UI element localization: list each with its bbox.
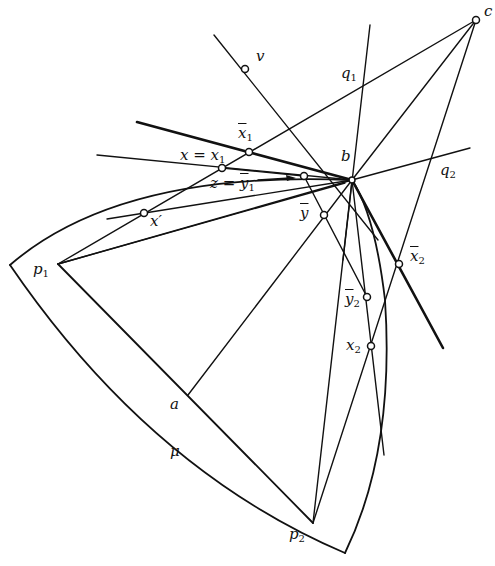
- label-x2-sub: 2: [354, 344, 360, 355]
- line-a-b: [188, 180, 352, 395]
- label-p2-base: p: [289, 525, 299, 543]
- point-x-x1: [219, 165, 226, 172]
- label-x-eq-x1-text: x = x: [180, 146, 219, 164]
- diagram-canvas: c v q1 q2 b x1 x = x1 z = y1 x′ y x2 y2 …: [0, 0, 495, 566]
- point-xbar2: [396, 261, 403, 268]
- label-z-eq-ybar: y: [240, 174, 248, 192]
- label-ybar2-sub: 2: [353, 298, 359, 309]
- line-p1-p2: [58, 264, 313, 523]
- point-x2: [368, 343, 375, 350]
- label-x2: x2: [346, 338, 361, 355]
- label-xbar1-sub: 1: [246, 132, 252, 143]
- label-xbar2: x2: [410, 249, 425, 266]
- label-a: a: [170, 397, 179, 412]
- label-q2: q2: [440, 163, 456, 180]
- label-ybar: y: [300, 206, 308, 221]
- outer-region-right-edge: [345, 180, 387, 553]
- point-ybar: [321, 212, 328, 219]
- label-p1-base: p: [33, 260, 43, 278]
- line-c-x2: [313, 20, 476, 523]
- line-c-b: [352, 20, 476, 180]
- label-q2-sub: 2: [450, 169, 456, 180]
- label-q1: q1: [341, 66, 357, 83]
- label-q1-sub: 1: [351, 72, 357, 83]
- point-v: [242, 66, 249, 73]
- label-x-eq-x1-sub: 1: [219, 154, 225, 165]
- label-xbar2-sub: 2: [418, 255, 424, 266]
- label-x-eq-x1: x = x1: [180, 148, 225, 165]
- line-c-p1: [58, 20, 476, 264]
- point-ybar2: [364, 294, 371, 301]
- point-z-ybar1: [301, 173, 308, 180]
- label-p1-sub: 1: [43, 268, 49, 279]
- label-q2-base: q: [440, 161, 450, 179]
- construction-figure: [0, 0, 495, 566]
- point-c: [473, 17, 480, 24]
- label-q1-base: q: [341, 64, 351, 82]
- point-xbar1: [246, 149, 253, 156]
- label-b: b: [341, 149, 351, 164]
- label-p2-sub: 2: [299, 533, 305, 544]
- label-mu: μ: [170, 444, 180, 459]
- label-xbar1: x1: [238, 126, 253, 143]
- label-z-eq-sub: 1: [249, 182, 255, 193]
- line-p1-b-b: [58, 183, 345, 264]
- line-ybar-ybar2: [304, 176, 367, 297]
- label-p2: p2: [289, 527, 305, 544]
- label-ybar2: y2: [345, 292, 360, 309]
- label-xprime: x′: [150, 214, 162, 229]
- label-p1: p1: [33, 262, 49, 279]
- label-c: c: [484, 4, 492, 19]
- point-xprime: [141, 210, 148, 217]
- label-z-eq-ybar1: z = y1: [210, 176, 255, 193]
- point-b: [349, 177, 355, 183]
- label-v: v: [256, 49, 264, 64]
- label-z-eq-text: z =: [210, 174, 240, 192]
